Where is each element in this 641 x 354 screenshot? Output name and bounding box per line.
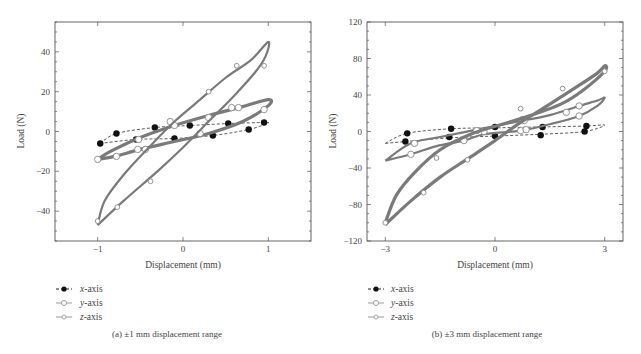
- z-axis-marker: [560, 86, 565, 91]
- x-tick-label: 0: [493, 244, 498, 254]
- panel-a-legend: x-axis y-axis z-axis: [56, 284, 103, 322]
- z-axis-marker: [206, 89, 211, 94]
- open-small-circle-marker-icon: [62, 315, 66, 319]
- legend-item-z-axis: z-axis: [368, 312, 413, 322]
- figure: −40−2002040−101 −120−80−4004080120−303 D…: [0, 0, 641, 354]
- legend-item-z-axis: z-axis: [56, 312, 102, 322]
- z-axis-marker: [115, 205, 120, 210]
- x-axis-marker: [404, 130, 410, 136]
- filled-circle-marker-icon: [61, 286, 66, 291]
- x-tick-label: 0: [181, 244, 186, 254]
- x-axis-marker: [246, 126, 252, 132]
- z-axis-marker: [383, 220, 388, 225]
- y-tick-label: 0: [46, 127, 51, 137]
- x-tick-label: −3: [380, 244, 390, 254]
- y-tick-label: 40: [41, 47, 51, 57]
- legend-item-y-axis: y-axis: [368, 298, 414, 308]
- z-axis-marker: [234, 63, 239, 68]
- y-axis-marker: [235, 104, 241, 110]
- z-axis-marker: [95, 219, 100, 224]
- x-axis-marker: [581, 128, 587, 134]
- svg-text:z-axis: z-axis: [79, 312, 102, 322]
- y-axis-marker: [576, 103, 582, 109]
- y-axis-marker: [261, 106, 267, 112]
- z-axis-marker: [602, 69, 607, 74]
- y-axis-marker: [228, 104, 234, 110]
- x-axis-marker: [113, 130, 119, 136]
- open-circle-marker-icon: [373, 300, 378, 305]
- plot-frame: [55, 22, 311, 241]
- z-axis-marker: [465, 157, 470, 162]
- svg-text:x-axis: x-axis: [390, 284, 414, 294]
- svg-text:y-axis: y-axis: [79, 298, 103, 308]
- y-axis-marker: [113, 153, 119, 159]
- filled-circle-marker-icon: [373, 286, 378, 291]
- legend-item-y-axis: y-axis: [56, 298, 103, 308]
- series-y-axis-line: [98, 100, 272, 160]
- panel-b-legend: x-axis y-axis z-axis: [368, 284, 414, 322]
- panel-a-ylabel: Load (N): [16, 113, 27, 148]
- x-tick-label: −1: [93, 244, 103, 254]
- y-tick-label: 0: [358, 127, 363, 137]
- y-tick-label: −40: [36, 206, 51, 216]
- x-axis-marker: [583, 123, 589, 129]
- svg-text:x-axis: x-axis: [79, 284, 103, 294]
- z-axis-marker: [148, 179, 153, 184]
- panel-b-chart: −120−80−4004080120−303: [343, 17, 623, 254]
- svg-text:y-axis: y-axis: [390, 298, 414, 308]
- panel-a-chart: −40−2002040−101: [36, 22, 311, 254]
- panel-b-ylabel: Load (N): [328, 113, 339, 148]
- open-circle-marker-icon: [61, 300, 66, 305]
- x-tick-label: 3: [602, 244, 607, 254]
- y-tick-label: 120: [349, 17, 363, 27]
- panel-b-caption: (b) ±3 mm displacement range: [432, 329, 542, 339]
- y-axis-marker: [523, 126, 529, 132]
- panel-a-xlabel: Displacement (mm): [145, 260, 221, 271]
- y-axis-marker: [576, 113, 582, 119]
- y-axis-marker: [563, 109, 569, 115]
- series-z-axis-line: [98, 42, 270, 225]
- x-axis-marker: [97, 140, 103, 146]
- y-tick-label: −120: [343, 236, 362, 246]
- y-tick-label: 40: [353, 90, 363, 100]
- y-tick-label: −40: [348, 163, 363, 173]
- y-axis-marker: [135, 136, 141, 142]
- series-z-axis-line: [385, 66, 606, 225]
- z-axis-marker: [434, 156, 439, 161]
- y-tick-label: 80: [353, 54, 363, 64]
- y-tick-label: −80: [348, 200, 363, 210]
- y-axis-marker: [408, 151, 414, 157]
- panel-a-caption: (a) ±1 mm displacement range: [112, 329, 222, 339]
- z-axis-marker: [421, 190, 426, 195]
- open-small-circle-marker-icon: [374, 315, 378, 319]
- x-axis-marker: [538, 132, 544, 138]
- x-tick-label: 1: [266, 244, 271, 254]
- legend-item-x-axis: x-axis: [368, 284, 414, 294]
- y-tick-label: −20: [36, 166, 51, 176]
- legend-item-x-axis: x-axis: [56, 284, 103, 294]
- svg-text:z-axis: z-axis: [390, 312, 413, 322]
- y-axis-marker: [411, 140, 417, 146]
- z-axis-marker: [262, 63, 267, 68]
- panel-b-xlabel: Displacement (mm): [457, 260, 533, 271]
- x-axis-marker: [448, 126, 454, 132]
- z-axis-marker: [518, 106, 523, 111]
- y-axis-marker: [94, 156, 100, 162]
- y-tick-label: 20: [41, 87, 51, 97]
- x-axis-marker: [261, 119, 267, 125]
- x-axis-marker: [187, 122, 193, 128]
- y-axis-marker: [135, 146, 141, 152]
